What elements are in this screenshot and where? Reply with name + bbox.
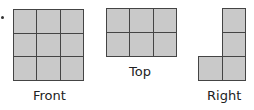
cube-face [199,57,222,80]
top-view-grid [106,8,177,57]
cube-face [61,57,83,80]
cube-face [14,10,36,33]
front-view-grid [13,9,84,81]
cube-face [61,10,83,33]
cube-face [37,34,59,57]
cube-face [130,9,152,32]
top-label: Top [129,64,151,79]
cube-face [154,33,176,56]
cube-face [37,57,59,80]
front-label: Front [33,88,66,103]
right-view-column [222,8,246,81]
cube-face [37,10,59,33]
cube-face [223,57,245,80]
right-view-side-cell [198,56,223,81]
bullet-dot [1,16,4,19]
cube-face [223,33,245,56]
cube-face [223,9,245,32]
right-label: Right [207,88,241,103]
cube-face [130,33,152,56]
cube-face [61,34,83,57]
cube-face [14,34,36,57]
cube-face [154,9,176,32]
cube-face [14,57,36,80]
cube-face [107,9,129,32]
cube-face [107,33,129,56]
